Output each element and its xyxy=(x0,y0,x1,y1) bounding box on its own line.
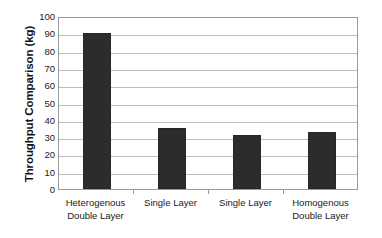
bar xyxy=(233,135,261,189)
y-axis-tick-label: 40 xyxy=(30,116,55,126)
x-axis-category-label: HomogenousDouble Layer xyxy=(283,197,358,222)
x-axis-category-label-line: Homogenous xyxy=(283,197,358,210)
y-axis-tick-label: 0 xyxy=(30,185,55,195)
x-axis-category-label-line: Single Layer xyxy=(208,197,283,210)
y-axis-tick-label: 90 xyxy=(30,30,55,40)
x-axis-category-label-line: Double Layer xyxy=(283,210,358,223)
plot-area xyxy=(58,17,358,190)
y-axis-tick-label: 60 xyxy=(30,81,55,91)
x-axis-tick xyxy=(133,190,134,194)
y-axis-tick-label: 80 xyxy=(30,47,55,57)
y-axis-tick-label: 70 xyxy=(30,64,55,74)
x-axis-category-labels: HeterogenousDouble LayerSingle LayerSing… xyxy=(58,197,358,233)
x-axis-category-label-line: Double Layer xyxy=(58,210,133,223)
x-axis-category-label: Single Layer xyxy=(208,197,283,210)
bar-chart-figure: Throughput Comparison (kg) 0102030405060… xyxy=(0,0,382,238)
bars-layer xyxy=(59,18,357,189)
bar-slot xyxy=(284,18,359,189)
y-axis-tick-label: 50 xyxy=(30,99,55,109)
y-axis-tick-label: 10 xyxy=(30,168,55,178)
bar-slot xyxy=(134,18,209,189)
bar-slot xyxy=(59,18,134,189)
y-axis-tick-label: 100 xyxy=(30,12,55,22)
y-axis-tick-label: 30 xyxy=(30,133,55,143)
x-axis-ticks xyxy=(58,190,358,195)
y-axis-tick-labels: 0102030405060708090100 xyxy=(30,17,55,190)
bar xyxy=(83,33,111,189)
x-axis-category-label: Single Layer xyxy=(133,197,208,210)
y-axis-tick-label: 20 xyxy=(30,151,55,161)
bar-slot xyxy=(209,18,284,189)
x-axis-category-label-line: Heterogenous xyxy=(58,197,133,210)
x-axis-tick xyxy=(283,190,284,194)
bar xyxy=(158,128,186,189)
x-axis-category-label-line: Single Layer xyxy=(133,197,208,210)
x-axis-category-label: HeterogenousDouble Layer xyxy=(58,197,133,222)
bar xyxy=(308,132,336,189)
x-axis-tick xyxy=(208,190,209,194)
